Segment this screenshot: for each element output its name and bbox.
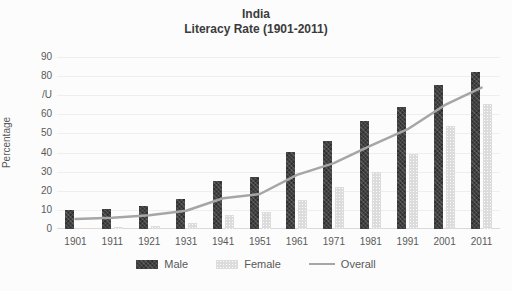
- x-tick-1961: 1961: [278, 236, 315, 248]
- legend-male-swatch-icon: [136, 260, 158, 269]
- y-tick-0: 0: [18, 223, 52, 235]
- x-tick-1941: 1941: [205, 236, 242, 248]
- y-axis-ticks: 0102030405060/U8090: [18, 57, 52, 229]
- legend-female-swatch-icon: [216, 260, 238, 269]
- overall-line: [76, 88, 482, 219]
- plot-area: [57, 57, 500, 229]
- y-tick-90: 90: [18, 51, 52, 63]
- x-tick-1931: 1931: [168, 236, 205, 248]
- legend-overall-swatch-icon: [309, 263, 335, 266]
- overall-line-layer: [57, 57, 500, 229]
- x-tick-1951: 1951: [242, 236, 279, 248]
- x-tick-1991: 1991: [389, 236, 426, 248]
- legend: Male Female Overall: [0, 258, 512, 270]
- chart-title: India: [0, 7, 512, 22]
- x-tick-1981: 1981: [352, 236, 389, 248]
- y-tick-40: 40: [18, 147, 52, 159]
- y-tick-50: 50: [18, 127, 52, 139]
- legend-item-male: Male: [136, 258, 188, 270]
- y-tick-10: 10: [18, 204, 52, 216]
- y-tick-60: 60: [18, 108, 52, 120]
- x-axis-ticks: 1901191119211931194119511961197119811991…: [57, 236, 500, 250]
- chart-title-block: India Literacy Rate (1901-2011): [0, 7, 512, 37]
- legend-item-overall: Overall: [309, 258, 376, 270]
- legend-female-label: Female: [244, 258, 281, 270]
- y-tick-70: /U: [18, 89, 52, 101]
- legend-item-female: Female: [216, 258, 281, 270]
- y-tick-80: 80: [18, 70, 52, 82]
- y-tick-20: 20: [18, 185, 52, 197]
- x-tick-2001: 2001: [426, 236, 463, 248]
- x-tick-1901: 1901: [57, 236, 94, 248]
- x-tick-2011: 2011: [463, 236, 500, 248]
- y-tick-30: 30: [18, 166, 52, 178]
- y-axis-title: Percentage: [1, 83, 12, 203]
- legend-male-label: Male: [164, 258, 188, 270]
- x-tick-1971: 1971: [315, 236, 352, 248]
- chart-subtitle: Literacy Rate (1901-2011): [0, 22, 512, 37]
- literacy-chart: India Literacy Rate (1901-2011) Percenta…: [0, 0, 512, 291]
- x-tick-1911: 1911: [94, 236, 131, 248]
- legend-overall-label: Overall: [341, 258, 376, 270]
- x-tick-1921: 1921: [131, 236, 168, 248]
